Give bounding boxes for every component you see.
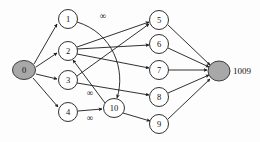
- node-label-2: 2: [66, 46, 70, 56]
- graph-node-5: 5: [150, 11, 169, 30]
- node-label-7: 7: [157, 65, 161, 75]
- edge-weight-e-1-10: ∞: [100, 11, 106, 21]
- graph-edge-8-to-1009: [168, 75, 209, 93]
- graph-edge-3-to-5: [77, 24, 149, 76]
- graph-node-6: 6: [150, 35, 169, 54]
- graph-edge-4-to-10: [78, 109, 102, 111]
- graph-node-0: 0: [13, 61, 36, 80]
- graph-edge-0-to-4: [33, 78, 58, 107]
- graph-node-1009: [208, 61, 230, 81]
- graph-node-1: 1: [59, 10, 78, 29]
- edge-weight-e-4-10: ∞: [87, 113, 93, 123]
- graph-edge-10-to-9: [123, 113, 150, 121]
- node-label-10: 10: [110, 103, 119, 113]
- node-label-8: 8: [157, 92, 161, 102]
- graph-figure: 012341056789 ∞∞∞1009: [0, 0, 260, 142]
- graph-edge-6-to-1009: [168, 48, 209, 67]
- node-label-1: 1: [66, 14, 70, 24]
- terminal-label: 1009: [233, 66, 252, 76]
- node-shape-1009: [208, 61, 230, 81]
- graph-edge-0-to-1: [34, 24, 57, 64]
- node-label-6: 6: [157, 39, 161, 49]
- graph-node-2: 2: [59, 42, 78, 61]
- graph-node-7: 7: [150, 61, 169, 80]
- graph-edge-2-to-5: [77, 22, 149, 47]
- graph-edge-2-to-6: [77, 45, 149, 49]
- graph-edge-0-to-3: [36, 74, 57, 79]
- graph-node-10: 10: [104, 99, 125, 118]
- node-label-3: 3: [66, 75, 70, 85]
- graph-node-9: 9: [150, 115, 169, 134]
- edge-weight-e-10-2: ∞: [87, 88, 93, 98]
- graph-edge-2-to-7: [77, 54, 149, 68]
- graph-canvas: 012341056789 ∞∞∞1009: [0, 0, 260, 142]
- graph-node-8: 8: [150, 88, 169, 107]
- graph-node-4: 4: [59, 103, 78, 122]
- node-label-9: 9: [157, 119, 161, 129]
- graph-node-3: 3: [59, 71, 78, 90]
- node-label-0: 0: [22, 65, 26, 75]
- nodes-layer: 012341056789: [13, 10, 231, 134]
- graph-edge-9-to-1009: [168, 79, 210, 119]
- node-label-5: 5: [157, 15, 161, 25]
- graph-edge-5-to-1009: [168, 25, 210, 65]
